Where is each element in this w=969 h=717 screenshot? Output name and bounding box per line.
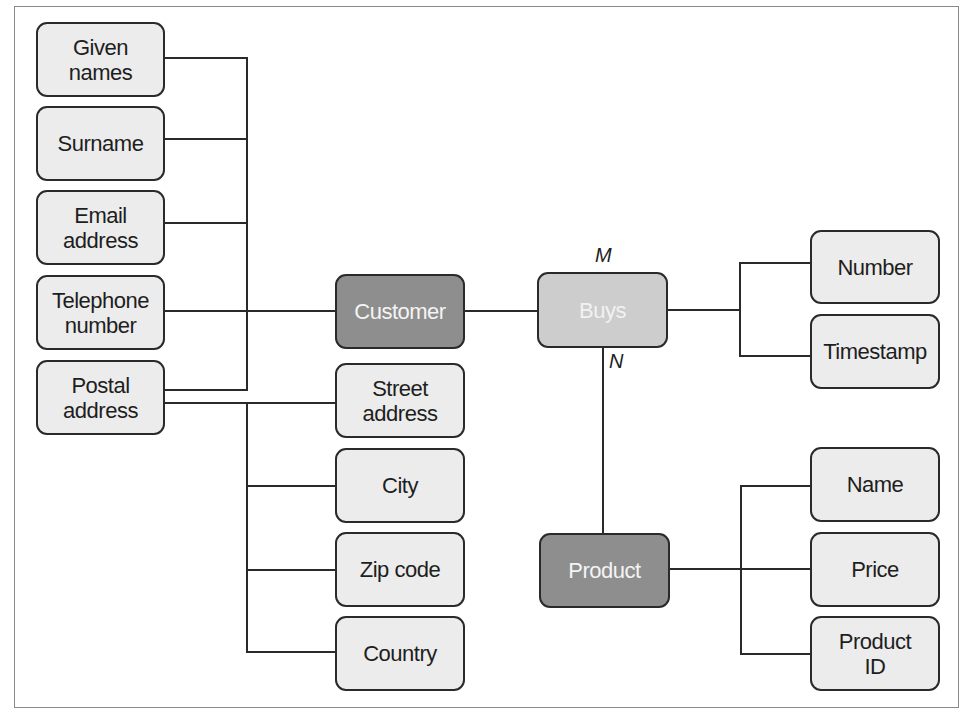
attribute-street-address: Street address bbox=[335, 363, 465, 438]
attribute-number: Number bbox=[810, 230, 940, 304]
attribute-country: Country bbox=[335, 616, 465, 691]
attribute-timestamp: Timestamp bbox=[810, 314, 940, 389]
attribute-city: City bbox=[335, 448, 465, 523]
attribute-email-address: Email address bbox=[36, 190, 165, 265]
entity-customer: Customer bbox=[335, 274, 465, 349]
cardinality-m-label: M bbox=[595, 244, 612, 267]
attribute-surname: Surname bbox=[36, 106, 165, 181]
attribute-postal-address: Postal address bbox=[36, 360, 165, 435]
attribute-telephone-number: Telephone number bbox=[36, 275, 165, 350]
attribute-product-id: Product ID bbox=[810, 616, 940, 691]
cardinality-n-label: N bbox=[609, 350, 623, 373]
entity-product: Product bbox=[539, 533, 670, 608]
attribute-given-names: Given names bbox=[36, 22, 165, 97]
attribute-price: Price bbox=[810, 532, 940, 607]
attribute-name: Name bbox=[810, 447, 940, 522]
relationship-buys: Buys bbox=[537, 272, 668, 348]
attribute-zip-code: Zip code bbox=[335, 532, 465, 607]
